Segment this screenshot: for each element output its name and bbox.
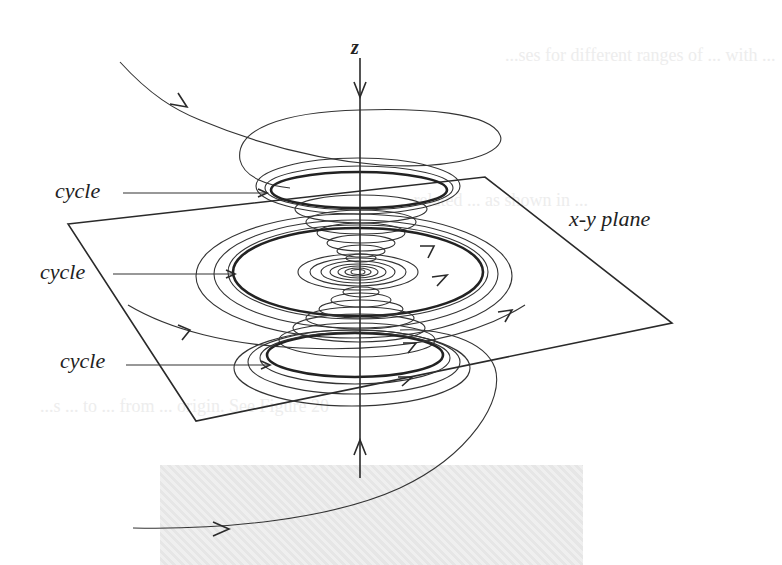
cycle-label-top: cycle	[55, 178, 100, 204]
cycle-middle	[233, 228, 483, 316]
cycle-bottom	[267, 333, 443, 377]
cycle-label-middle: cycle	[40, 259, 85, 285]
phase-portrait-drawing	[0, 0, 782, 565]
plane-label: x-y plane	[569, 206, 650, 232]
cycle-label-bottom: cycle	[60, 348, 105, 374]
limit-cycles-diagram: ...ses for different ranges of ... with …	[0, 0, 782, 565]
arrow-head-icon	[213, 522, 229, 536]
z-axis-label: z	[351, 36, 359, 59]
arrow-head-icon	[170, 93, 187, 107]
